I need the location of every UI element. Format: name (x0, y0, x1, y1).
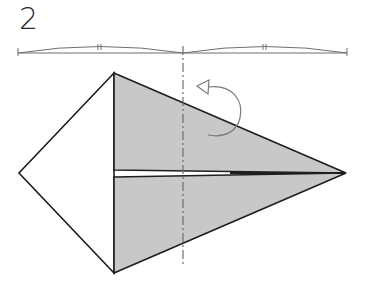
upper-shaded-flap (114, 73, 346, 173)
origami-fold-diagram (0, 0, 367, 289)
left-white-section (19, 73, 114, 273)
measure-arc-right (183, 47, 347, 54)
lower-shaded-flap (114, 173, 346, 273)
fold-arrow-head (197, 80, 209, 94)
